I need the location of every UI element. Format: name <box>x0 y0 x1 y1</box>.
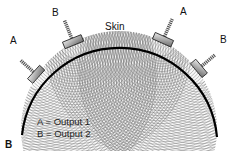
transducer-label-b-left: B <box>52 8 59 18</box>
transducer-label-a-right: A <box>180 7 187 17</box>
legend: A = Output 1 B = Output 2 <box>37 116 91 140</box>
legend-line-output-1: A = Output 1 <box>37 116 91 128</box>
panel-letter: B <box>5 139 12 150</box>
transducer-label-b-right: B <box>220 35 227 45</box>
skin-label: Skin <box>105 22 124 32</box>
legend-line-output-2: B = Output 2 <box>37 128 91 140</box>
transducer-label-a-left: A <box>10 36 17 46</box>
